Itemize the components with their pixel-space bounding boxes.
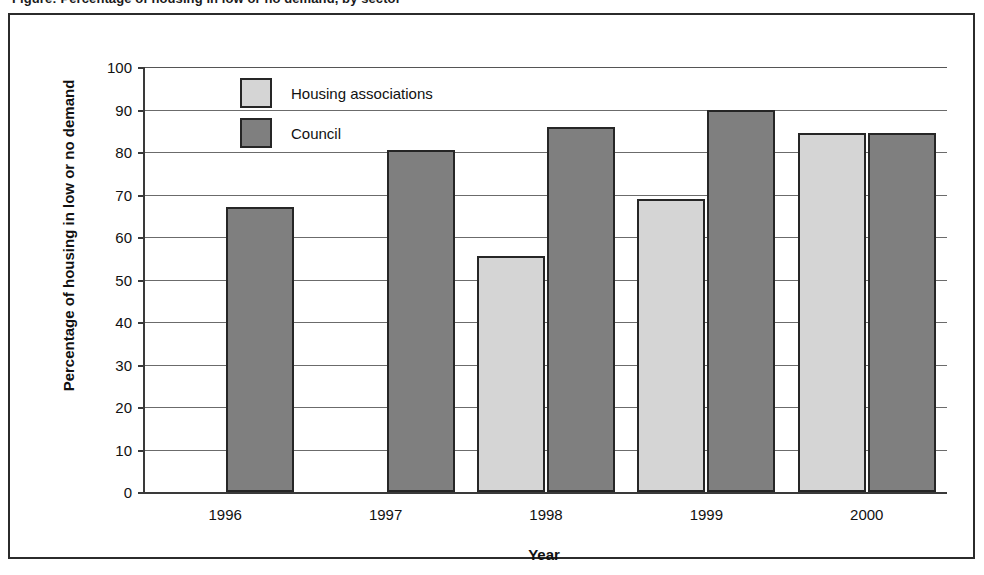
y-axis-tick-label: 100 — [107, 59, 132, 76]
x-axis-tick-label-1999: 1999 — [626, 506, 786, 523]
figure-page: Figure: Percentage of housing in low or … — [0, 0, 984, 575]
bar-1997-council — [387, 150, 455, 492]
bar-2000-housing-associations — [798, 133, 866, 492]
clipped-title-strip: Figure: Percentage of housing in low or … — [0, 0, 984, 11]
y-axis-tick — [138, 450, 145, 452]
bar-1999-housing-associations — [637, 199, 705, 492]
x-axis-tick-label-1996: 1996 — [145, 506, 305, 523]
legend: Housing associations Council — [240, 73, 433, 153]
figure-frame: Percentage of housing in low or no deman… — [8, 13, 975, 559]
y-axis-tick-label: 30 — [115, 356, 132, 373]
figure-title: Figure: Percentage of housing in low or … — [12, 0, 401, 6]
y-axis-tick-label: 10 — [115, 441, 132, 458]
y-axis-title: Percentage of housing in low or no deman… — [60, 46, 77, 426]
legend-item-council: Council — [240, 113, 433, 153]
legend-label-council: Council — [291, 125, 341, 142]
x-axis-tick-label-2000: 2000 — [787, 506, 947, 523]
bar-1998-housing-associations — [477, 256, 545, 492]
y-axis-tick — [138, 280, 145, 282]
y-axis-tick-label: 20 — [115, 399, 132, 416]
bar-1996-council — [226, 207, 294, 492]
y-axis-tick-label: 50 — [115, 271, 132, 288]
y-axis-tick-label: 90 — [115, 101, 132, 118]
y-axis-tick — [138, 237, 145, 239]
y-axis-tick — [138, 110, 145, 112]
y-axis-tick — [138, 322, 145, 324]
bar-group-1998: 1998 — [466, 67, 626, 492]
y-axis-tick-label: 70 — [115, 186, 132, 203]
y-axis-tick — [138, 67, 145, 69]
x-axis-tick-label-1998: 1998 — [466, 506, 626, 523]
legend-swatch-icon-council — [240, 118, 272, 148]
legend-label-housing-associations: Housing associations — [291, 85, 433, 102]
bar-2000-council — [868, 133, 936, 492]
x-axis-title: Year — [143, 546, 945, 563]
legend-swatch-icon-housing-associations — [240, 78, 272, 108]
y-axis-tick — [138, 152, 145, 154]
y-axis-tick-label: 60 — [115, 229, 132, 246]
y-axis-tick — [138, 195, 145, 197]
y-axis-tick — [138, 407, 145, 409]
y-axis-tick-label: 40 — [115, 314, 132, 331]
plot-area: 0102030405060708090100 19961997199819992… — [143, 67, 947, 494]
y-axis-tick-label: 0 — [124, 484, 132, 501]
bar-1999-council — [707, 110, 775, 493]
y-axis-tick-label: 80 — [115, 144, 132, 161]
y-axis-tick — [138, 492, 145, 494]
bar-group-1999: 1999 — [626, 67, 786, 492]
x-axis-tick-label-1997: 1997 — [305, 506, 465, 523]
bar-1998-council — [547, 127, 615, 493]
y-axis-tick — [138, 365, 145, 367]
bar-group-2000: 2000 — [787, 67, 947, 492]
legend-item-housing-associations: Housing associations — [240, 73, 433, 113]
